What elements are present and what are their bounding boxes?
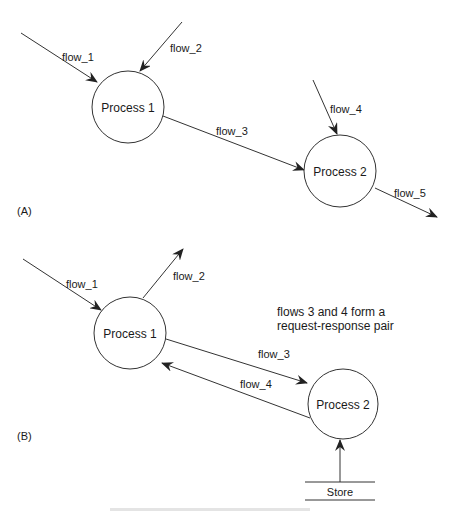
flow-3-arrow [166,339,307,383]
process-1-label: Process 1 [101,101,155,115]
flow-5-label: flow_5 [394,187,426,199]
flow-4-arrow [162,363,310,418]
panel-a-label: (A) [17,205,32,217]
flow-2-label: flow_2 [170,42,202,54]
flow-4-label: flow_4 [240,378,272,390]
data-store: Store [305,482,375,500]
panel-a: flow_1 flow_2 Process 1 flow_3 flow_4 Pr… [17,22,437,217]
process-2-label: Process 2 [313,165,367,179]
process-1-label: Process 1 [103,327,157,341]
caption-smudge [110,508,310,511]
process-2-label: Process 2 [316,398,370,412]
data-flow-diagram: flow_1 flow_2 Process 1 flow_3 flow_4 Pr… [0,0,453,515]
flow-2-label: flow_2 [173,270,205,282]
note-line-1: flows 3 and 4 form a [277,305,385,319]
flow-4-label: flow_4 [330,103,362,115]
flow-1-label: flow_1 [66,278,98,290]
flow-3-label: flow_3 [216,125,248,137]
note-line-2: request-response pair [277,319,394,333]
faint-caption [110,508,310,511]
flow-3-label: flow_3 [258,348,290,360]
panel-b-label: (B) [17,430,32,442]
flow-1-label: flow_1 [62,51,94,63]
panel-b: flow_1 Process 1 flow_2 flows 3 and 4 fo… [17,249,394,500]
store-label: Store [327,486,353,498]
